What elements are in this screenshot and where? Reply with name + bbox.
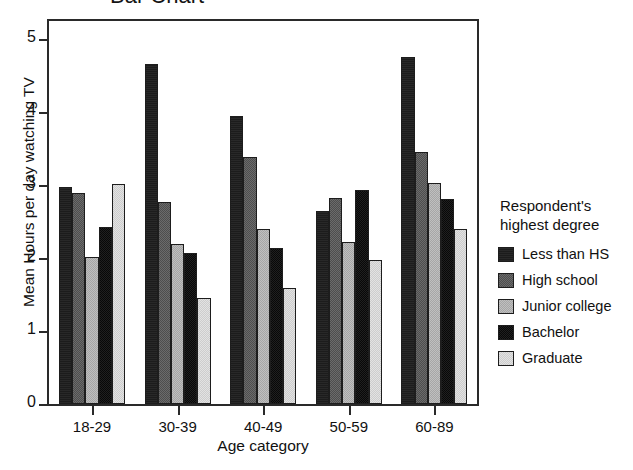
bar-40-49-less-than-hs [230, 116, 243, 404]
legend: Respondent's highest degree Less than HS… [498, 196, 633, 371]
legend-label: Bachelor [522, 324, 579, 340]
x-tick-label: 50-59 [307, 418, 391, 435]
bar-50-59-junior-college [342, 242, 355, 404]
bar-30-39-bachelor [184, 253, 197, 404]
y-tick-1: 1 [0, 331, 47, 332]
y-tick-mark [39, 331, 47, 333]
x-tick-mark [178, 406, 180, 415]
y-tick-label: 2 [27, 247, 36, 265]
legend-item-bachelor: Bachelor [498, 319, 633, 345]
bar-50-59-high-school [329, 198, 342, 404]
bar-60-89-junior-college [428, 183, 441, 404]
y-tick-label: 0 [27, 393, 36, 411]
bar-18-29-less-than-hs [59, 187, 72, 404]
legend-swatch-icon [498, 351, 514, 366]
bar-60-89-less-than-hs [401, 57, 414, 404]
x-tick-mark [92, 406, 94, 415]
legend-label: High school [522, 272, 598, 288]
x-tick-label: 30-39 [136, 418, 220, 435]
y-tick-5: 5 [0, 39, 47, 40]
y-tick-label: 1 [27, 320, 36, 338]
y-tick-3: 3 [0, 185, 47, 186]
y-tick-mark [39, 404, 47, 406]
x-axis-title: Age category [47, 437, 479, 455]
y-tick-0: 0 [0, 404, 47, 405]
legend-title: Respondent's highest degree [500, 196, 633, 234]
bar-40-49-graduate [283, 288, 296, 404]
cropped-title-strip: Bar Chart [0, 0, 633, 14]
x-tick-mark [434, 406, 436, 415]
y-tick-label: 4 [27, 101, 36, 119]
bar-18-29-junior-college [85, 257, 98, 404]
bar-18-29-bachelor [99, 227, 112, 404]
y-tick-mark [39, 112, 47, 114]
x-tick-label: 40-49 [221, 418, 305, 435]
bar-40-49-bachelor [270, 248, 283, 404]
legend-item-junior-college: Junior college [498, 293, 633, 319]
bar-chart-figure: Bar Chart Mean Hours per day watching TV… [0, 0, 633, 470]
bar-50-59-less-than-hs [316, 211, 329, 404]
plot-area [49, 21, 477, 404]
bar-40-49-high-school [243, 157, 256, 404]
x-tick-mark [349, 406, 351, 415]
y-tick-2: 2 [0, 258, 47, 259]
legend-entries: Less than HSHigh schoolJunior collegeBac… [498, 241, 633, 371]
bar-30-39-high-school [158, 202, 171, 404]
y-tick-mark [39, 39, 47, 41]
bar-40-49-junior-college [257, 229, 270, 404]
bar-60-89-high-school [415, 152, 428, 404]
legend-swatch-icon [498, 325, 514, 340]
legend-label: Less than HS [522, 246, 609, 262]
bar-60-89-graduate [454, 229, 467, 404]
bar-18-29-graduate [112, 184, 125, 404]
legend-swatch-icon [498, 299, 514, 314]
bar-30-39-junior-college [171, 244, 184, 404]
bar-50-59-bachelor [355, 190, 368, 404]
y-tick-label: 5 [27, 28, 36, 46]
x-tick-label: 18-29 [50, 418, 134, 435]
bar-50-59-graduate [369, 260, 382, 404]
legend-swatch-icon [498, 247, 514, 262]
bar-60-89-bachelor [441, 199, 454, 404]
bar-30-39-less-than-hs [145, 64, 158, 404]
bar-30-39-graduate [197, 298, 210, 404]
legend-item-graduate: Graduate [498, 345, 633, 371]
chart-title: Bar Chart [110, 0, 204, 9]
y-tick-label: 3 [27, 174, 36, 192]
legend-item-less-than-hs: Less than HS [498, 241, 633, 267]
x-tick-mark [263, 406, 265, 415]
bar-18-29-high-school [72, 193, 85, 404]
legend-label: Graduate [522, 350, 582, 366]
y-tick-4: 4 [0, 112, 47, 113]
x-tick-label: 60-89 [392, 418, 476, 435]
y-tick-mark [39, 185, 47, 187]
legend-item-high-school: High school [498, 267, 633, 293]
legend-label: Junior college [522, 298, 611, 314]
legend-swatch-icon [498, 273, 514, 288]
y-tick-mark [39, 258, 47, 260]
